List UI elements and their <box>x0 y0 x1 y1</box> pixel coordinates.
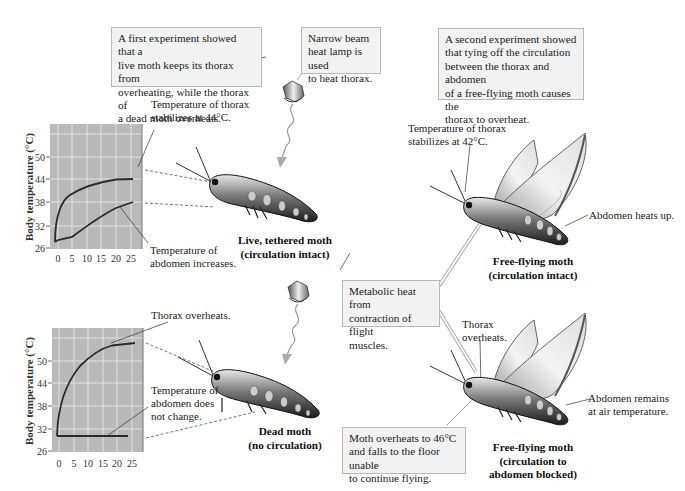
live-moth-caption: Live, tethered moth (circulation intact) <box>226 234 344 261</box>
caption-line: Dead moth <box>226 425 344 439</box>
box-line: Moth overheats to 46°C <box>349 432 459 445</box>
blocked-thorax-label: Thorax overheats. <box>462 318 507 344</box>
box-line: Narrow beam <box>308 32 374 45</box>
box-line: heat lamp is used <box>308 45 374 72</box>
moth-overheats-box: Moth overheats to 46°C and falls to the … <box>342 427 466 474</box>
heat-lamp-icon <box>277 81 304 168</box>
caption-line: (circulation intact) <box>226 248 344 262</box>
box-line: Metabolic heat from <box>349 285 433 312</box>
dead-abdomen-label: Temperature of abdomen does not change. <box>151 384 218 424</box>
caption-line: (no circulation) <box>226 439 344 453</box>
caption-line: Free-flying moth <box>474 255 592 269</box>
blocked-moth-caption: Free-flying moth (circulation to abdomen… <box>474 441 592 482</box>
live-thorax-label: Temperature of thorax stabilizes at 44°C… <box>151 98 249 124</box>
caption-line: Live, tethered moth <box>226 234 344 248</box>
label-line: Thorax overheats. <box>151 309 230 322</box>
y-axis-label: Body temperature (°C) <box>23 337 36 445</box>
free-thorax-label: Temperature of thorax stabilizes at 42°C… <box>408 122 506 148</box>
box-line: A second experiment showed <box>445 33 577 46</box>
box-line: A first experiment showed that a <box>118 32 255 59</box>
box-line: that tying off the circulation <box>445 46 577 59</box>
box-line: to continue flying. <box>349 472 459 485</box>
x-tick-labels: 0510 152025 <box>57 458 138 469</box>
box-line: to heat thorax. <box>308 72 374 85</box>
svg-text:25: 25 <box>127 458 137 469</box>
svg-text:32: 32 <box>37 424 47 435</box>
chart-live-moth: 5044 383226 0510 152025 Body temperature… <box>23 124 142 264</box>
svg-text:10: 10 <box>82 253 92 264</box>
svg-text:44: 44 <box>37 378 47 389</box>
label-line: Temperature of thorax <box>151 98 249 111</box>
svg-text:50: 50 <box>37 356 47 367</box>
first-experiment-box: A first experiment showed that a live mo… <box>111 27 262 87</box>
blocked-abdomen-label: Abdomen remains at air temperature. <box>588 392 669 418</box>
label-line: stabilizes at 42°C. <box>408 135 506 148</box>
y-tick-labels: 5044 383226 <box>37 356 47 457</box>
live-abdomen-label: Temperature of abdomen increases. <box>150 244 236 270</box>
svg-text:10: 10 <box>83 458 93 469</box>
svg-text:15: 15 <box>98 458 108 469</box>
blocked-moth-illustration <box>430 313 586 425</box>
svg-text:5: 5 <box>72 458 77 469</box>
svg-text:38: 38 <box>35 197 45 208</box>
box-line: between the thorax and abdomen <box>445 60 577 87</box>
caption-line: (circulation intact) <box>474 269 592 283</box>
svg-text:20: 20 <box>112 458 122 469</box>
label-line: Abdomen heats up. <box>589 209 674 222</box>
y-tick-labels: 5044 383226 <box>35 152 45 254</box>
svg-text:26: 26 <box>37 446 47 457</box>
metabolic-heat-box: Metabolic heat from contraction of fligh… <box>342 280 440 327</box>
label-line: Temperature of thorax <box>408 122 506 135</box>
live-moth-illustration <box>176 147 317 222</box>
svg-text:0: 0 <box>56 253 61 264</box>
y-axis-label: Body temperature (°C) <box>23 133 36 241</box>
second-experiment-box: A second experiment showed that tying of… <box>438 28 584 100</box>
label-line: stabilizes at 44°C. <box>151 111 249 124</box>
dead-moth-caption: Dead moth (no circulation) <box>226 425 344 452</box>
label-line: not change. <box>151 410 218 423</box>
svg-text:25: 25 <box>126 253 136 264</box>
caption-line: (circulation to <box>474 455 592 469</box>
label-line: Abdomen remains <box>588 392 669 405</box>
x-tick-labels: 0510 152025 <box>56 253 137 264</box>
heat-lamp-box: Narrow beam heat lamp is used to heat th… <box>301 27 381 74</box>
svg-text:32: 32 <box>35 221 45 232</box>
box-line: muscles. <box>349 339 433 352</box>
box-line: and falls to the floor unable <box>349 445 459 472</box>
caption-line: abdomen blocked) <box>474 468 592 482</box>
box-line: live moth keeps its thorax from <box>118 59 255 86</box>
box-line: contraction of flight <box>349 312 433 339</box>
dead-thorax-label: Thorax overheats. <box>151 309 230 322</box>
label-line: overheats. <box>462 331 507 344</box>
svg-text:20: 20 <box>111 253 121 264</box>
label-line: Temperature of <box>151 384 218 397</box>
svg-text:50: 50 <box>35 152 45 163</box>
label-line: abdomen increases. <box>150 257 236 270</box>
caption-line: Free-flying moth <box>474 441 592 455</box>
svg-text:15: 15 <box>96 253 106 264</box>
svg-text:0: 0 <box>57 458 62 469</box>
svg-text:5: 5 <box>70 253 75 264</box>
svg-text:44: 44 <box>35 174 45 185</box>
plot-area <box>50 124 142 249</box>
label-line: Thorax <box>462 318 507 331</box>
label-line: at air temperature. <box>588 405 669 418</box>
svg-text:38: 38 <box>37 401 47 412</box>
svg-text:26: 26 <box>35 243 45 254</box>
label-line: abdomen does <box>151 397 218 410</box>
free-flying-moth-illustration <box>430 133 586 245</box>
heat-lamp-icon <box>282 281 309 365</box>
free-abdomen-label: Abdomen heats up. <box>589 209 674 222</box>
label-line: Temperature of <box>150 244 236 257</box>
box-line: of a free-flying moth causes the <box>445 87 577 114</box>
chart-dead-moth: 5044 383226 0510 152025 Body temperature… <box>23 328 143 469</box>
free-moth-caption: Free-flying moth (circulation intact) <box>474 255 592 282</box>
